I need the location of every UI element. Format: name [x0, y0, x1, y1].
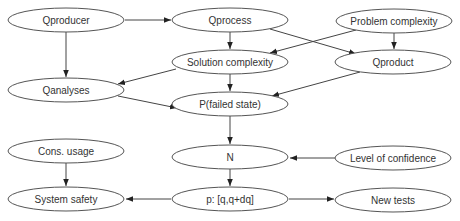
node-label: p: [q,q+dq] [206, 194, 254, 205]
edge-problem-complexity-solution-complexity [270, 30, 356, 53]
node-label: Qprocess [209, 15, 252, 26]
node-qanalyses: Qanalyses [8, 78, 124, 102]
node-label: Level of confidence [350, 153, 437, 164]
node-cons-usage: Cons. usage [8, 139, 124, 163]
node-label: Problem complexity [350, 16, 437, 27]
edge-solution-complexity-qanalyses [118, 69, 176, 84]
edge-qanalyses-p-failed-state [118, 96, 177, 108]
node-label: Qproduct [372, 57, 413, 68]
node-p-interval: p: [q,q+dq] [172, 187, 288, 211]
node-level-of-confidence: Level of confidence [335, 146, 451, 170]
node-label: N [226, 152, 233, 163]
node-qproducer: Qproducer [8, 8, 124, 32]
node-label: Cons. usage [38, 146, 95, 157]
node-problem-complexity: Problem complexity [336, 9, 452, 33]
node-label: New tests [371, 195, 415, 206]
diagram-canvas: Qproducer Qprocess Problem complexity So… [0, 0, 460, 221]
node-qproduct: Qproduct [335, 50, 451, 74]
node-qprocess: Qprocess [172, 8, 288, 32]
node-label: P(failed state) [199, 99, 261, 110]
node-solution-complexity: Solution complexity [172, 50, 288, 74]
node-label: System safety [35, 194, 98, 205]
node-p-failed-state: P(failed state) [172, 92, 288, 116]
edge-qproduct-p-failed-state [272, 72, 360, 96]
node-label: Qanalyses [42, 85, 89, 96]
node-new-tests: New tests [335, 188, 451, 212]
node-n: N [172, 145, 288, 169]
node-label: Qproducer [42, 15, 90, 26]
node-label: Solution complexity [187, 57, 273, 68]
node-system-safety: System safety [8, 187, 124, 211]
